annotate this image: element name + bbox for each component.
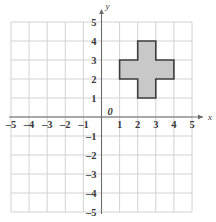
x-axis-arrowhead — [198, 115, 203, 120]
y-tick-label: 4 — [91, 36, 97, 47]
x-tick-label: 2 — [135, 119, 140, 130]
plus-cross-polygon — [120, 41, 174, 98]
y-axis-name: y — [105, 1, 110, 11]
y-tick-label: 2 — [91, 74, 96, 85]
x-tick-label: 5 — [189, 119, 194, 130]
y-tick-label: –5 — [85, 207, 97, 218]
y-tick-label: –1 — [85, 131, 97, 142]
y-tick-label: –3 — [85, 169, 97, 180]
x-tick-label: 1 — [117, 119, 122, 130]
origin-label: 0 — [108, 106, 114, 117]
x-tick-label: –1 — [77, 119, 89, 130]
x-tick-label: –4 — [23, 119, 35, 130]
y-tick-label: –4 — [85, 188, 97, 199]
x-tick-label: 4 — [171, 119, 177, 130]
x-axis-name: x — [207, 112, 212, 122]
y-tick-label: –2 — [85, 150, 97, 161]
x-tick-label: –5 — [5, 119, 17, 130]
axis-labels: –5–4–3–2–11234554321–1–2–3–4–50xy — [5, 1, 212, 218]
x-tick-label: –3 — [41, 119, 53, 130]
y-tick-label: 3 — [91, 55, 96, 66]
coordinate-plane-figure: –5–4–3–2–11234554321–1–2–3–4–50xy — [0, 0, 216, 222]
x-tick-label: –2 — [59, 119, 71, 130]
x-tick-label: 3 — [153, 119, 158, 130]
y-tick-label: 5 — [91, 17, 96, 28]
y-axis-arrowhead — [99, 9, 104, 14]
coordinate-plane-svg: –5–4–3–2–11234554321–1–2–3–4–50xy — [0, 0, 216, 222]
y-tick-label: 1 — [91, 93, 96, 104]
